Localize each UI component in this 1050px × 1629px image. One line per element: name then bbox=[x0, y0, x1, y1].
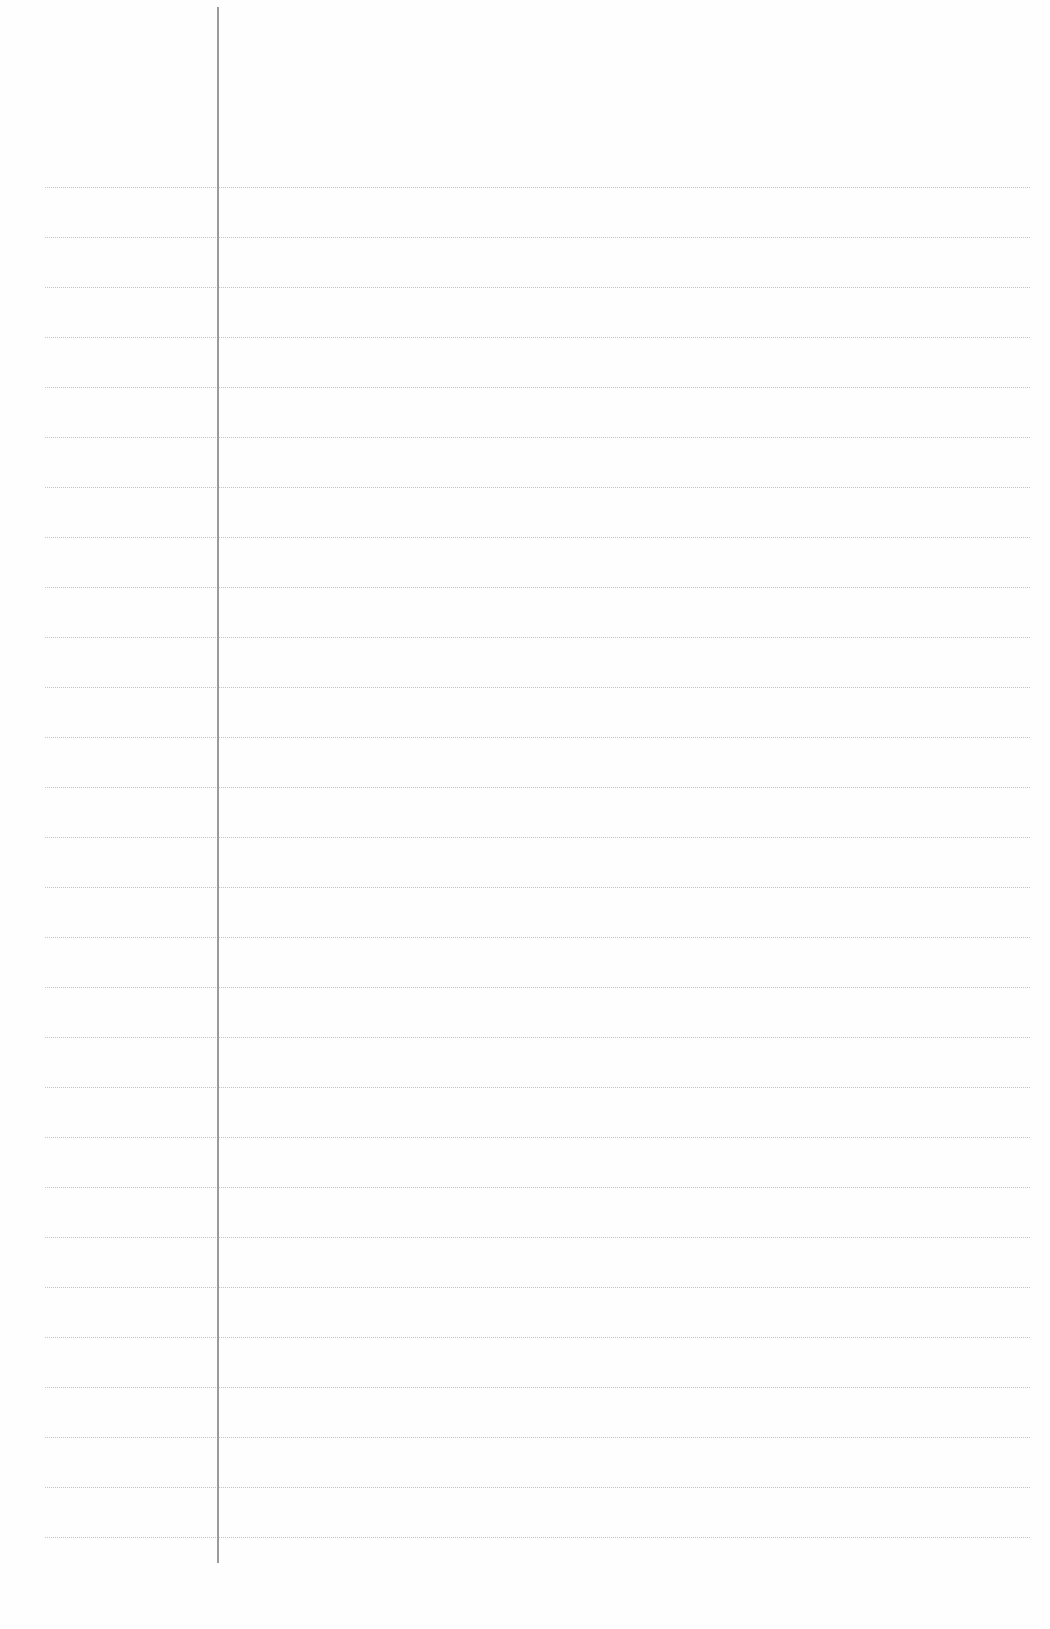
ruled-line bbox=[45, 887, 1030, 888]
ruled-line bbox=[45, 1437, 1030, 1438]
ruled-line bbox=[45, 187, 1030, 188]
ruled-line bbox=[45, 537, 1030, 538]
ruled-line bbox=[45, 1037, 1030, 1038]
ruled-line bbox=[45, 1387, 1030, 1388]
ruled-line bbox=[45, 787, 1030, 788]
ruled-line bbox=[45, 1487, 1030, 1488]
ruled-line bbox=[45, 1337, 1030, 1338]
ruled-line bbox=[45, 1237, 1030, 1238]
margin-line bbox=[217, 7, 219, 1563]
ruled-line bbox=[45, 737, 1030, 738]
ruled-line bbox=[45, 1137, 1030, 1138]
ruled-line bbox=[45, 987, 1030, 988]
ruled-line bbox=[45, 1537, 1030, 1538]
lined-paper-sheet bbox=[0, 0, 1050, 1629]
ruled-line bbox=[45, 637, 1030, 638]
ruled-line bbox=[45, 1187, 1030, 1188]
ruled-line bbox=[45, 837, 1030, 838]
ruled-line bbox=[45, 937, 1030, 938]
ruled-line bbox=[45, 287, 1030, 288]
ruled-line bbox=[45, 1287, 1030, 1288]
ruled-line bbox=[45, 337, 1030, 338]
ruled-line bbox=[45, 587, 1030, 588]
ruled-line bbox=[45, 387, 1030, 388]
ruled-line bbox=[45, 437, 1030, 438]
ruled-line bbox=[45, 1087, 1030, 1088]
ruled-line bbox=[45, 237, 1030, 238]
ruled-line bbox=[45, 687, 1030, 688]
ruled-line bbox=[45, 487, 1030, 488]
